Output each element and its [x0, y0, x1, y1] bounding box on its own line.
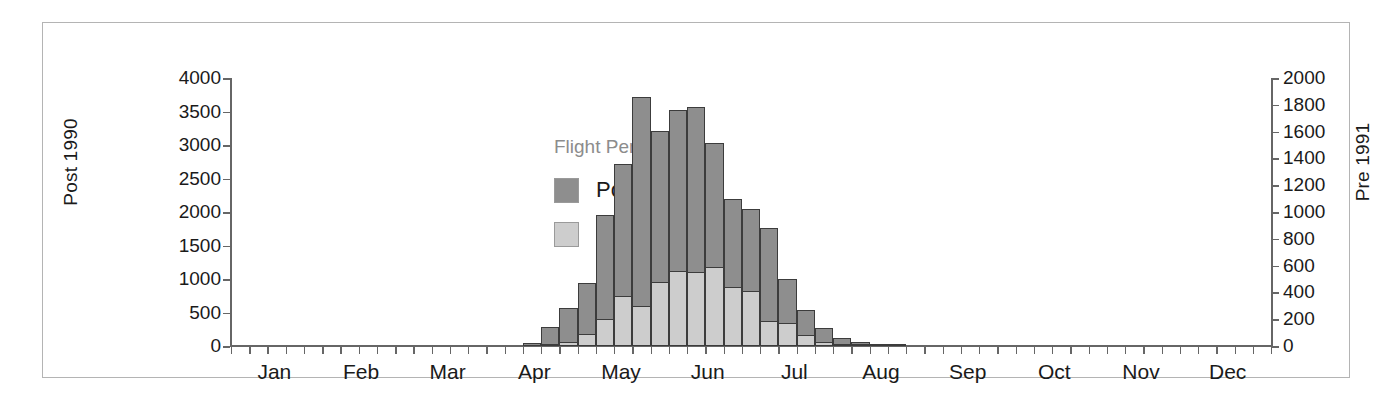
x-tick-mark [997, 346, 998, 354]
x-tick-mark [559, 346, 560, 354]
left-ytick-mark [223, 212, 230, 214]
x-tick-mark [1034, 346, 1035, 354]
x-month-label: Mar [430, 360, 466, 384]
right-ytick-label: 600 [1283, 256, 1353, 275]
x-month-label: Feb [343, 360, 379, 384]
x-tick-mark [1235, 346, 1236, 354]
x-tick-mark [395, 346, 396, 354]
x-tick-mark [267, 346, 268, 354]
left-ytick-mark [223, 279, 230, 281]
x-tick-mark [249, 346, 250, 354]
x-tick-mark [760, 346, 761, 354]
x-tick-mark [359, 346, 360, 354]
right-ytick-label: 1600 [1283, 122, 1353, 141]
left-ytick-mark [223, 78, 230, 80]
x-tick-mark [1070, 346, 1071, 354]
x-tick-mark [1107, 346, 1108, 354]
right-ytick-label: 2000 [1283, 68, 1353, 87]
plot-area: 05001000150020002500300035004000 0200400… [231, 78, 1271, 346]
right-ytick-label: 1000 [1283, 202, 1353, 221]
bar-pre [669, 271, 687, 346]
left-axis-spine [230, 78, 232, 347]
bar-pre [742, 291, 760, 346]
left-axis-title: Post 1990 [60, 82, 82, 242]
bar-post [523, 343, 541, 346]
bar-pre [851, 344, 869, 346]
right-ytick-label: 800 [1283, 229, 1353, 248]
chart-figure: Post 1990 Pre 1991 050010001500200025003… [0, 0, 1390, 399]
bar-pre [760, 321, 778, 346]
x-tick-mark [413, 346, 414, 354]
x-tick-mark [1216, 346, 1217, 354]
x-month-label: Apr [518, 360, 551, 384]
x-tick-mark [924, 346, 925, 354]
left-ytick-label: 2000 [151, 202, 221, 221]
x-tick-mark [578, 346, 579, 354]
left-ytick-label: 4000 [151, 68, 221, 87]
legend-swatch-post-1990-icon [554, 178, 579, 203]
right-ytick-mark [1272, 346, 1279, 348]
right-ytick-mark [1272, 158, 1279, 160]
left-ytick-label: 1000 [151, 269, 221, 288]
x-tick-mark [1125, 346, 1126, 354]
x-tick-mark [1180, 346, 1181, 354]
x-tick-mark [833, 346, 834, 354]
bar-post [559, 308, 577, 346]
bar-pre [578, 334, 596, 346]
x-month-label: Dec [1209, 360, 1246, 384]
x-tick-mark [541, 346, 542, 354]
bar-pre [596, 319, 614, 346]
x-month-label: Jul [781, 360, 808, 384]
bar-pre [778, 323, 796, 346]
bar-pre [797, 335, 815, 346]
x-tick-mark [286, 346, 287, 354]
right-axis-title: Pre 1991 [1352, 82, 1374, 242]
x-tick-mark [1052, 346, 1053, 354]
left-ytick-mark [223, 313, 230, 315]
right-ytick-label: 1800 [1283, 95, 1353, 114]
bar-pre [632, 306, 650, 346]
x-tick-mark [468, 346, 469, 354]
figure-frame: Post 1990 Pre 1991 050010001500200025003… [42, 22, 1350, 378]
x-tick-mark [1253, 346, 1254, 354]
x-month-label: Oct [1038, 360, 1071, 384]
right-ytick-mark [1272, 319, 1279, 321]
x-tick-mark [651, 346, 652, 354]
right-ytick-mark [1272, 266, 1279, 268]
x-tick-mark [669, 346, 670, 354]
x-tick-mark [304, 346, 305, 354]
x-tick-mark [979, 346, 980, 354]
right-ytick-mark [1272, 292, 1279, 294]
x-tick-mark [888, 346, 889, 354]
bar-post [888, 344, 906, 346]
x-tick-mark [851, 346, 852, 354]
legend-swatch-pre-1991-icon [554, 222, 579, 247]
left-ytick-label: 2500 [151, 169, 221, 188]
x-tick-mark [705, 346, 706, 354]
bar-pre [559, 342, 577, 346]
x-month-label: Jan [257, 360, 291, 384]
right-ytick-mark [1272, 78, 1279, 80]
x-tick-mark [1089, 346, 1090, 354]
bar-pre [724, 287, 742, 346]
x-tick-mark [1016, 346, 1017, 354]
x-tick-mark [1271, 346, 1272, 354]
right-ytick-mark [1272, 105, 1279, 107]
x-tick-mark [432, 346, 433, 354]
x-tick-mark [943, 346, 944, 354]
x-tick-mark [778, 346, 779, 354]
right-ytick-mark [1272, 132, 1279, 134]
x-tick-mark [870, 346, 871, 354]
x-tick-mark [322, 346, 323, 354]
right-ytick-label: 1400 [1283, 148, 1353, 167]
right-ytick-label: 200 [1283, 309, 1353, 328]
x-month-label: Sep [949, 360, 986, 384]
x-tick-mark [815, 346, 816, 354]
x-tick-mark [450, 346, 451, 354]
x-tick-mark [523, 346, 524, 354]
left-ytick-label: 3500 [151, 102, 221, 121]
x-tick-mark [505, 346, 506, 354]
right-ytick-mark [1272, 212, 1279, 214]
left-ytick-mark [223, 246, 230, 248]
left-ytick-mark [223, 145, 230, 147]
